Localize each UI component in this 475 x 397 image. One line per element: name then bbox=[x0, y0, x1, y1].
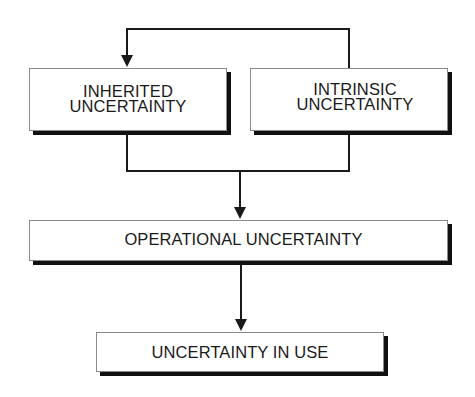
node-label-line-2: UNCERTAINTY bbox=[297, 97, 414, 112]
inherited-uncertainty-box: INHERITED UNCERTAINTY bbox=[29, 68, 227, 131]
arrowhead-down-icon bbox=[235, 319, 247, 331]
node-label: OPERATIONAL UNCERTAINTY bbox=[124, 232, 362, 247]
diagram-canvas: INHERITED UNCERTAINTY INTRINSIC UNCERTAI… bbox=[0, 0, 475, 397]
uncertainty-in-use-box: UNCERTAINTY IN USE bbox=[96, 332, 384, 372]
operational-uncertainty-box: OPERATIONAL UNCERTAINTY bbox=[29, 220, 448, 261]
arrowhead-down-icon bbox=[234, 207, 246, 219]
merge-connector bbox=[127, 135, 349, 171]
feedback-connector bbox=[127, 29, 349, 68]
intrinsic-uncertainty-box: INTRINSIC UNCERTAINTY bbox=[250, 68, 448, 131]
node-label: UNCERTAINTY IN USE bbox=[152, 345, 329, 360]
node-label-line-2: UNCERTAINTY bbox=[70, 99, 187, 114]
arrowhead-down-icon bbox=[121, 55, 133, 67]
